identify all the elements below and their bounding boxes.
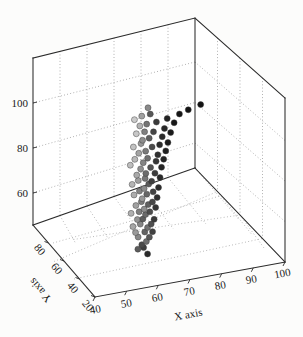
scatter-point bbox=[163, 148, 169, 154]
scatter-point bbox=[144, 121, 150, 127]
scatter-point bbox=[159, 164, 165, 170]
scatter-point bbox=[150, 229, 156, 235]
plot-canvas: 100 80 60 40 50 60 70 80 90 100 X axis bbox=[0, 0, 303, 337]
scatter-point bbox=[165, 140, 171, 146]
scatter-point bbox=[145, 105, 151, 111]
scatter-point bbox=[137, 123, 143, 129]
scatter-point bbox=[154, 195, 160, 201]
scatter-point bbox=[129, 181, 135, 187]
scatter-point bbox=[143, 170, 149, 176]
scatter-point bbox=[141, 186, 147, 192]
y-tick-label-80: 80 bbox=[32, 241, 49, 258]
scatter-point bbox=[133, 203, 139, 209]
scatter-point bbox=[152, 170, 158, 176]
scatter-point bbox=[161, 125, 167, 131]
scatter-point bbox=[153, 205, 159, 211]
scatter-point bbox=[146, 234, 152, 240]
y-axis-title: Y axis bbox=[26, 276, 53, 305]
y-tick-label-40: 40 bbox=[65, 279, 82, 296]
scatter-point bbox=[134, 172, 140, 178]
scatter-point bbox=[185, 107, 191, 113]
scatter-point bbox=[131, 117, 137, 123]
scatter-point bbox=[153, 158, 159, 164]
scatter-point bbox=[176, 111, 182, 117]
scatter-point bbox=[136, 150, 142, 156]
z-tick-label-100: 100 bbox=[12, 97, 29, 109]
scatter-point bbox=[133, 230, 139, 236]
scatter-point bbox=[133, 131, 139, 137]
scatter-point bbox=[150, 189, 156, 195]
scatter-point bbox=[145, 251, 151, 257]
scatter-point bbox=[168, 130, 174, 136]
scatter-point bbox=[164, 115, 170, 121]
scatter-point bbox=[142, 129, 148, 135]
scatter-point bbox=[130, 144, 136, 150]
scatter-point bbox=[140, 137, 146, 143]
scatter-point bbox=[139, 113, 145, 119]
scatter-point bbox=[127, 162, 133, 168]
scatter-point bbox=[138, 166, 144, 172]
scatter-point bbox=[156, 185, 162, 191]
scatter-point bbox=[155, 152, 161, 158]
z-tick-label-80: 80 bbox=[17, 142, 29, 154]
scatter-point bbox=[149, 144, 155, 150]
x-tick-label-90: 90 bbox=[245, 272, 258, 286]
scatter-point bbox=[139, 196, 145, 202]
x-tick-label-70: 70 bbox=[183, 284, 196, 298]
scatter-point bbox=[147, 209, 153, 215]
scatter-point bbox=[134, 217, 140, 223]
scatter-point bbox=[149, 199, 155, 205]
scatter-point bbox=[140, 160, 146, 166]
scatter-point bbox=[147, 111, 153, 117]
x-tick-label-80: 80 bbox=[214, 278, 227, 292]
scatter-point bbox=[157, 175, 163, 181]
scatter-point bbox=[145, 155, 151, 161]
scatter-point bbox=[157, 142, 163, 148]
scatter-point bbox=[150, 129, 156, 135]
scatter-point bbox=[151, 216, 157, 222]
scatter-point bbox=[146, 135, 152, 141]
scatter-point bbox=[161, 156, 167, 162]
scatter-point bbox=[148, 164, 154, 170]
scatter-point bbox=[198, 102, 204, 108]
scatter-point bbox=[149, 178, 155, 184]
scatter-point bbox=[171, 120, 177, 126]
x-tick-label-60: 60 bbox=[151, 290, 164, 304]
scatter-point bbox=[143, 148, 149, 154]
scatter-point bbox=[144, 191, 150, 197]
x-axis-title: X axis bbox=[173, 306, 203, 323]
z-axis-tick-labels: 100 80 60 bbox=[12, 97, 29, 199]
z-tick-label-60: 60 bbox=[17, 187, 29, 199]
x-tick-label-50: 50 bbox=[120, 296, 133, 310]
scatter-point bbox=[153, 119, 159, 125]
scatter-point bbox=[159, 134, 165, 140]
scatter-point bbox=[132, 156, 138, 162]
y-tick-label-60: 60 bbox=[49, 260, 66, 277]
scatter-point bbox=[131, 192, 137, 198]
scatter-point bbox=[128, 210, 134, 216]
scatter-point bbox=[130, 224, 136, 230]
x-tick-label-100: 100 bbox=[273, 266, 292, 281]
scatter-point bbox=[135, 178, 141, 184]
scatter3d-figure: 100 80 60 40 50 60 70 80 90 100 X axis bbox=[0, 0, 303, 337]
